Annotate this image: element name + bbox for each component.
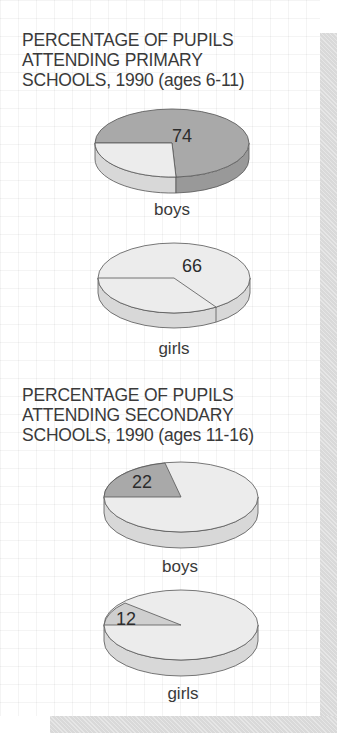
pie-label: boys [162, 557, 198, 577]
pie-label: boys [154, 200, 190, 220]
pie-primary-girls [98, 243, 250, 328]
pie-secondary-boys [104, 462, 258, 548]
pie-label: girls [158, 339, 189, 359]
pie-value: 74 [172, 126, 192, 147]
pie-secondary-girls [104, 590, 258, 676]
pie-value: 66 [182, 256, 202, 277]
pie-charts-canvas [0, 0, 356, 735]
pie-value: 12 [116, 609, 136, 630]
pie-value: 22 [132, 472, 152, 493]
pie-primary-boys [95, 109, 249, 193]
pie-label: girls [167, 684, 198, 704]
